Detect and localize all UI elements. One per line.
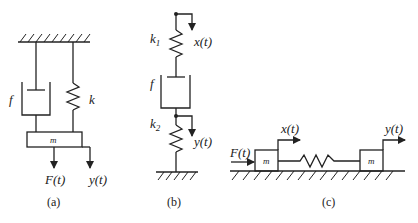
ground-c <box>230 171 405 180</box>
displacement-label-a: y(t) <box>87 172 107 187</box>
x-arrow-c <box>278 140 300 150</box>
input-label-b: x(t) <box>193 34 212 49</box>
caption-c: (c) <box>322 195 335 209</box>
x-label-c: x(t) <box>280 121 299 136</box>
damper-b <box>161 74 190 116</box>
figure-b: k1 x(t) f k2 y(t) (b) <box>150 12 212 209</box>
y-arrow-c <box>383 140 405 150</box>
ceiling-ground-a <box>18 34 90 42</box>
mass-left-label-c: m <box>263 156 270 166</box>
y-label-c: y(t) <box>383 121 403 136</box>
spring-k1-b <box>170 14 182 74</box>
figure-a: f k m F(t) y(t) (a) <box>9 34 107 209</box>
damper-label-a: f <box>9 92 15 107</box>
damper-a <box>22 42 50 132</box>
mass-right-label-c: m <box>368 156 375 166</box>
figure-c: F(t) x(t) y(t) m m (c) <box>229 121 405 209</box>
caption-b-text: (b) <box>167 195 181 209</box>
output-label-b: y(t) <box>192 134 212 149</box>
force-label-a: F(t) <box>44 172 65 187</box>
force-label-c: F(t) <box>229 145 250 160</box>
mechanical-systems-diagram: f k m F(t) y(t) (a) k1 <box>0 0 418 223</box>
mass-label-a: m <box>50 135 57 145</box>
spring-k2-b <box>170 116 182 172</box>
spring-a <box>67 42 79 132</box>
ground-b <box>156 172 198 180</box>
damper-label-b: f <box>150 76 156 91</box>
spring-label-a: k <box>89 92 95 107</box>
input-arrow-b <box>176 14 192 30</box>
spring1-label-b: k1 <box>150 31 160 48</box>
spring2-label-b: k2 <box>150 116 161 133</box>
spring-c <box>278 155 360 167</box>
caption-a: (a) <box>47 195 60 209</box>
